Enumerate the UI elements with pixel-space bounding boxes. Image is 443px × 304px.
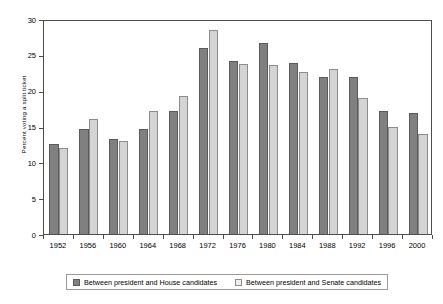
bar-senate-1968 (179, 96, 188, 234)
y-axis-title: Percent voting a split ticket (17, 7, 31, 222)
y-tick: 5 (0, 199, 43, 200)
bar-house-1956 (79, 129, 88, 234)
legend-swatch-house-icon (73, 279, 80, 286)
x-tick-label-1992: 1992 (342, 241, 372, 250)
y-tick: 20 (0, 92, 43, 93)
x-tick-mark (163, 235, 164, 239)
bar-senate-1952 (59, 148, 68, 234)
x-tick-label-1980: 1980 (252, 241, 282, 250)
chart-legend: Between president and House candidates B… (66, 274, 388, 290)
y-tick: 30 (0, 20, 43, 21)
bar-senate-1988 (329, 69, 338, 234)
x-tick-label-1996: 1996 (372, 241, 402, 250)
y-tick-label: 5 (32, 194, 36, 205)
bar-senate-1992 (358, 98, 367, 234)
x-tick-mark (342, 235, 343, 239)
y-tick-label: 30 (28, 15, 36, 26)
x-tick-mark (103, 235, 104, 239)
x-tick-label-1952: 1952 (43, 241, 73, 250)
bar-senate-1956 (89, 119, 98, 234)
y-tick: 15 (0, 128, 43, 129)
y-tick: 10 (0, 163, 43, 164)
x-tick-label-1976: 1976 (223, 241, 253, 250)
legend-swatch-senate-icon (235, 279, 242, 286)
x-tick-mark (252, 235, 253, 239)
bar-house-1964 (139, 129, 148, 234)
bar-house-2000 (409, 113, 418, 234)
x-tick-label-1968: 1968 (163, 241, 193, 250)
bar-house-1984 (289, 63, 298, 234)
x-tick-mark (133, 235, 134, 239)
x-tick-label-1964: 1964 (133, 241, 163, 250)
x-tick-label-1984: 1984 (282, 241, 312, 250)
bar-senate-1960 (119, 141, 128, 234)
bar-senate-1996 (388, 127, 397, 234)
x-tick-mark (372, 235, 373, 239)
bar-house-1976 (229, 61, 238, 234)
y-tick-label: 15 (28, 122, 36, 133)
legend-label-senate: Between president and Senate candidates (246, 278, 381, 287)
y-tick: 0 (0, 235, 43, 236)
bar-house-1960 (109, 139, 118, 234)
x-tick-mark (312, 235, 313, 239)
x-tick-label-1956: 1956 (73, 241, 103, 250)
x-tick-mark (223, 235, 224, 239)
legend-item-house: Between president and House candidates (73, 278, 217, 287)
bar-house-1996 (379, 111, 388, 234)
x-tick-label-1972: 1972 (193, 241, 223, 250)
bar-senate-1964 (149, 111, 158, 234)
legend-label-house: Between president and House candidates (84, 278, 217, 287)
bar-senate-2000 (418, 134, 427, 234)
x-tick-label-2000: 2000 (402, 241, 432, 250)
y-tick-label: 0 (32, 230, 36, 241)
bar-house-1972 (199, 48, 208, 234)
y-tick-label: 20 (28, 86, 36, 97)
y-tick-label: 10 (28, 158, 36, 169)
y-tick: 25 (0, 56, 43, 57)
chart-figure: Percent voting a split ticket 0510152025… (0, 0, 443, 304)
y-tick-label: 25 (28, 50, 36, 61)
x-tick-label-1988: 1988 (312, 241, 342, 250)
x-tick-mark (73, 235, 74, 239)
legend-item-senate: Between president and Senate candidates (235, 278, 381, 287)
x-tick-mark (43, 235, 44, 239)
bar-senate-1976 (239, 64, 248, 234)
plot-area (43, 20, 432, 235)
x-tick-mark (402, 235, 403, 239)
bar-house-1952 (49, 144, 58, 234)
bar-house-1968 (169, 111, 178, 234)
x-tick-mark (282, 235, 283, 239)
bar-senate-1980 (269, 65, 278, 234)
x-tick-mark (193, 235, 194, 239)
bar-house-1980 (259, 43, 268, 234)
bar-house-1992 (349, 77, 358, 234)
bar-house-1988 (319, 77, 328, 234)
x-tick-mark (432, 235, 433, 239)
x-tick-label-1960: 1960 (103, 241, 133, 250)
bar-senate-1984 (299, 72, 308, 234)
bar-senate-1972 (209, 30, 218, 234)
